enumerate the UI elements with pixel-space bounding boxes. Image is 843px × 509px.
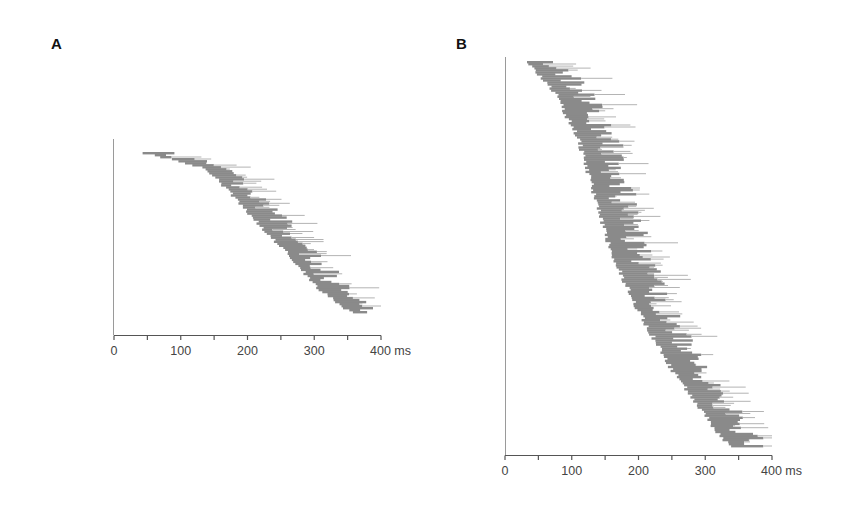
raster-row-tail [360, 303, 363, 304]
raster-row [671, 364, 696, 366]
raster-row-tail [252, 191, 276, 192]
raster-row-tail [651, 305, 671, 306]
raster-row [636, 301, 651, 303]
raster-row [572, 128, 591, 130]
raster-row [642, 319, 660, 321]
raster-row-tail [655, 297, 669, 298]
raster-row-tail [624, 224, 638, 225]
raster-row [536, 69, 569, 71]
raster-row-tail [722, 395, 723, 396]
raster-row-tail [712, 405, 731, 406]
raster-row [690, 396, 719, 398]
raster-row-tail [721, 391, 730, 392]
raster-row-tail [269, 203, 290, 204]
raster-row-tail [255, 207, 269, 208]
x-axis-a: 0100200300400 ms [111, 336, 411, 359]
raster-row-tail [605, 127, 636, 128]
raster-row-tail [296, 239, 324, 240]
raster-row [587, 165, 608, 167]
raster-row [316, 287, 349, 289]
raster-row [630, 287, 649, 289]
raster-row-tail [594, 94, 625, 95]
raster-row [622, 280, 662, 282]
raster-row-tail [272, 229, 295, 230]
raster-row [542, 75, 571, 77]
raster-row [565, 108, 593, 110]
raster-row-tail [631, 188, 640, 189]
raster-rows-a [143, 152, 381, 313]
raster-row [592, 185, 610, 187]
raster-row-tail [350, 287, 380, 288]
raster-row [688, 390, 721, 392]
raster-row-tail [709, 383, 714, 384]
raster-row [575, 134, 601, 136]
raster-row [612, 256, 643, 258]
raster-row-tail [593, 108, 614, 109]
raster-row-tail [611, 139, 618, 140]
raster-row-tail [589, 120, 605, 121]
x-tick-label: 100 [561, 464, 582, 478]
raster-row-tail [654, 275, 688, 276]
x-axis-b: 0100200300400 ms [502, 456, 802, 479]
raster-row-tail [214, 165, 237, 166]
raster-row-tail [543, 64, 576, 65]
raster-row [720, 435, 758, 437]
raster-row-tail [283, 231, 313, 232]
raster-row-tail [692, 336, 718, 337]
raster-row [649, 325, 680, 327]
raster-row [616, 262, 639, 264]
raster-row-tail [263, 205, 279, 206]
raster-row-tail [741, 427, 768, 428]
raster-row-tail [622, 210, 645, 211]
raster-row-tail [626, 236, 651, 237]
raster-row-tail [643, 257, 670, 258]
raster-row [660, 352, 692, 354]
raster-row [598, 211, 638, 213]
raster-row [661, 345, 678, 347]
raster-row-tail [236, 175, 246, 176]
raster-row-tail [723, 393, 749, 394]
raster-row-tail [291, 237, 314, 238]
raster-row-tail [654, 285, 668, 286]
raster-row-tail [655, 265, 662, 266]
x-tick-label: 300 [695, 464, 716, 478]
raster-row [528, 63, 543, 65]
raster-row-tail [362, 306, 381, 307]
raster-row [548, 83, 582, 85]
raster-row [578, 146, 600, 148]
raster-row-tail [763, 437, 772, 438]
raster-row-tail [749, 439, 750, 440]
raster-row [677, 376, 701, 378]
raster-row-tail [641, 220, 649, 221]
raster-row [731, 445, 763, 447]
raster-row-tail [308, 249, 314, 250]
raster-row [728, 441, 744, 443]
raster-row-tail [587, 118, 604, 119]
x-tick-label: 100 [170, 344, 191, 358]
raster-row [566, 114, 588, 116]
raster-row-tail [601, 135, 602, 136]
raster-row [591, 179, 624, 181]
raster-row [584, 159, 624, 161]
raster-row-tail [624, 157, 627, 158]
raster-row-tail [601, 153, 632, 154]
raster-row-tail [353, 297, 375, 298]
raster-row-tail [597, 137, 613, 138]
raster-row-tail [651, 301, 682, 302]
raster-row-tail [726, 413, 751, 414]
raster-row [611, 248, 628, 250]
raster-row [611, 242, 645, 244]
raster-row-tail [609, 169, 616, 170]
raster-row-tail [654, 277, 668, 278]
raster-row-tail [633, 190, 640, 191]
raster-row-tail [610, 177, 621, 178]
raster-row [353, 311, 367, 313]
raster-row [560, 102, 589, 104]
raster-row [212, 174, 236, 176]
raster-row-tail [656, 313, 682, 314]
raster-row-tail [305, 245, 306, 246]
raster-row-tail [299, 253, 327, 254]
raster-row-tail [244, 179, 274, 180]
raster-row-tail [651, 259, 664, 260]
raster-row-tail [221, 167, 251, 168]
